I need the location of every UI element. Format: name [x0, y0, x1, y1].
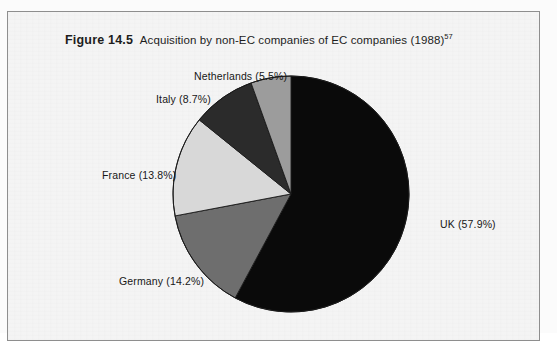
pie-slice-group	[173, 76, 409, 312]
figure-frame: Figure 14.5 Acquisition by non-EC compan…	[7, 11, 540, 341]
pie-chart: Netherlands (5.5%) Italy (8.7%) France (…	[8, 12, 557, 345]
pie-label-italy: Italy (8.7%)	[156, 93, 211, 105]
pie-label-uk: UK (57.9%)	[440, 218, 496, 230]
pie-label-france: France (13.8%)	[102, 169, 176, 181]
pie-label-netherlands: Netherlands (5.5%)	[194, 70, 287, 82]
pie-label-germany: Germany (14.2%)	[119, 275, 204, 287]
pie-chart-svg	[8, 12, 541, 342]
